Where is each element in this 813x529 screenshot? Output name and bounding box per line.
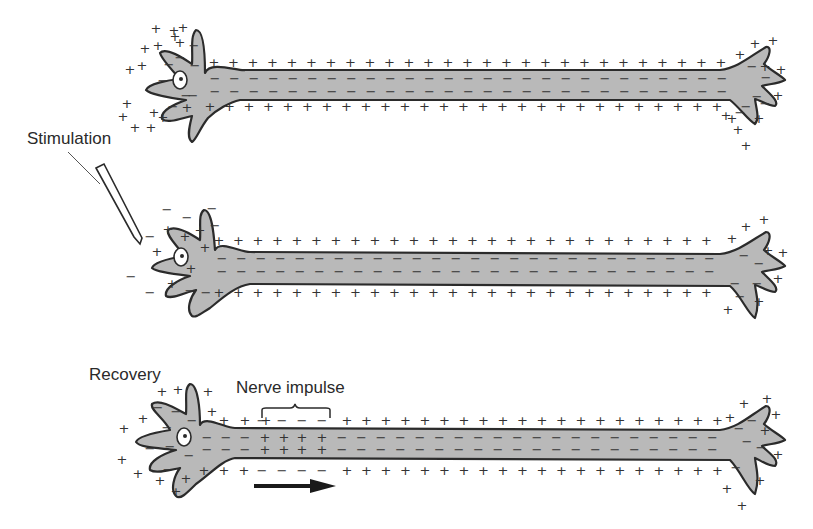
minus-charge: −: [395, 442, 406, 457]
plus-charge: +: [723, 302, 734, 317]
plus-charge: +: [146, 120, 157, 135]
plus-charge: +: [634, 463, 645, 478]
minus-charge: −: [502, 84, 513, 99]
minus-charge: −: [688, 442, 699, 457]
minus-charge: −: [275, 264, 286, 279]
plus-charge: +: [643, 285, 654, 300]
plus-charge: +: [682, 233, 693, 248]
minus-charge: −: [317, 463, 328, 478]
minus-charge: −: [610, 442, 621, 457]
plus-charge: +: [248, 55, 259, 70]
plus-charge: +: [673, 463, 684, 478]
minus-charge: −: [483, 84, 494, 99]
plus-charge: +: [618, 55, 629, 70]
plus-charge: +: [693, 463, 704, 478]
plus-charge: +: [214, 233, 225, 248]
plus-charge: +: [138, 411, 149, 426]
minus-charge: −: [288, 84, 299, 99]
plus-charge: +: [178, 20, 189, 35]
minus-charge: −: [385, 84, 396, 99]
plus-charge: +: [712, 463, 723, 478]
plus-charge: +: [487, 233, 498, 248]
plus-charge: +: [556, 463, 567, 478]
minus-charge: −: [626, 264, 637, 279]
minus-charge: −: [490, 264, 501, 279]
plus-charge: +: [342, 463, 353, 478]
plus-charge: +: [342, 413, 353, 428]
minus-charge: −: [356, 442, 367, 457]
plus-charge: +: [125, 62, 136, 77]
plus-charge: +: [326, 55, 337, 70]
plus-charge: +: [487, 285, 498, 300]
plus-charge: +: [536, 99, 547, 114]
plus-charge: +: [428, 233, 439, 248]
neuron-impulse-diagram: Stimulation Recovery Nerve impulse +++++…: [0, 0, 813, 529]
plus-charge: +: [214, 285, 225, 300]
minus-charge: −: [236, 264, 247, 279]
plus-charge: +: [754, 111, 765, 126]
minus-charge: −: [185, 283, 196, 298]
nucleolus-icon: [179, 77, 183, 81]
minus-charge: −: [268, 84, 279, 99]
minus-charge: −: [210, 218, 221, 233]
plus-charge: +: [420, 463, 431, 478]
minus-charge: −: [184, 448, 195, 463]
minus-charge: −: [512, 442, 523, 457]
plus-charge: +: [682, 285, 693, 300]
plus-charge: +: [119, 421, 130, 436]
plus-charge: +: [409, 285, 420, 300]
minus-charge: −: [424, 84, 435, 99]
plus-charge: +: [623, 285, 634, 300]
plus-charge: +: [428, 285, 439, 300]
plus-charge: +: [498, 463, 509, 478]
plus-charge: +: [458, 99, 469, 114]
plus-charge: +: [478, 99, 489, 114]
plus-charge: +: [599, 55, 610, 70]
plus-charge: +: [654, 413, 665, 428]
plus-charge: +: [180, 229, 191, 244]
plus-charge: +: [311, 233, 322, 248]
minus-charge: −: [346, 84, 357, 99]
plus-charge: +: [482, 55, 493, 70]
minus-charge: −: [548, 264, 559, 279]
plus-charge: +: [423, 55, 434, 70]
plus-charge: +: [735, 47, 746, 62]
plus-charge: +: [443, 55, 454, 70]
plus-charge: +: [654, 463, 665, 478]
plus-charge: +: [350, 233, 361, 248]
plus-charge: +: [604, 233, 615, 248]
plus-charge: +: [380, 99, 391, 114]
plus-charge: +: [322, 99, 333, 114]
minus-charge: −: [639, 84, 650, 99]
minus-charge: −: [221, 442, 232, 457]
plus-charge: +: [283, 99, 294, 114]
minus-charge: −: [454, 442, 465, 457]
plus-charge: +: [404, 55, 415, 70]
plus-charge: +: [331, 285, 342, 300]
plus-charge: +: [292, 233, 303, 248]
plus-charge: +: [152, 244, 163, 259]
plus-charge: +: [240, 413, 251, 428]
plus-charge: +: [634, 413, 645, 428]
nucleolus-icon: [180, 254, 184, 258]
plus-charge: +: [439, 413, 450, 428]
plus-charge: +: [501, 55, 512, 70]
plus-charge: +: [773, 88, 784, 103]
plus-charge: +: [701, 285, 712, 300]
plus-charge: +: [420, 413, 431, 428]
plus-charge: +: [167, 276, 178, 291]
plus-charge: +: [448, 285, 459, 300]
minus-charge: −: [145, 229, 156, 244]
minus-charge: −: [451, 264, 462, 279]
plus-charge: +: [137, 58, 148, 73]
plus-charge: +: [696, 55, 707, 70]
plus-charge: +: [517, 99, 528, 114]
minus-charge: −: [747, 413, 758, 428]
minus-charge: −: [392, 264, 403, 279]
minus-charge: −: [463, 84, 474, 99]
plus-charge: +: [207, 404, 218, 419]
minus-charge: −: [470, 264, 481, 279]
plus-charge: +: [604, 285, 615, 300]
plus-charge: +: [400, 99, 411, 114]
plus-charge: +: [311, 285, 322, 300]
